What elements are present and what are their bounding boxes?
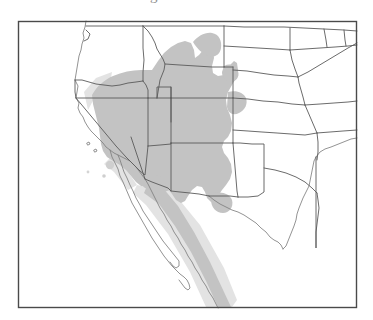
caption-fragment-text: g bbox=[150, 0, 158, 4]
disjunct-population-3 bbox=[87, 171, 90, 174]
distribution-map-figure: g bbox=[0, 0, 373, 320]
disjunct-population-2 bbox=[102, 174, 106, 178]
map-canvas bbox=[0, 0, 373, 320]
disjunct-population-1 bbox=[106, 161, 114, 169]
